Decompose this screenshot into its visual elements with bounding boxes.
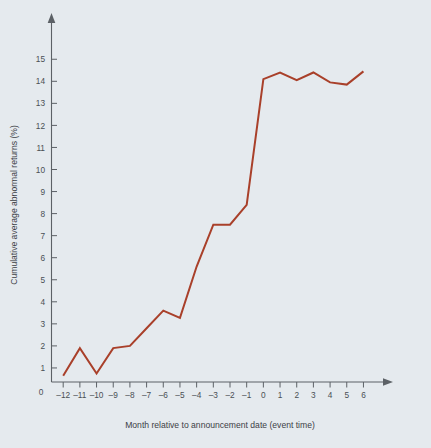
origin-label: 0	[39, 387, 44, 397]
y-tick-label: 12	[36, 121, 46, 131]
y-axis-arrow-icon	[48, 13, 56, 23]
data-series-line	[63, 71, 363, 375]
y-tick-label: 8	[40, 209, 45, 219]
x-tick-label: 5	[344, 390, 349, 400]
x-tick-label: 6	[361, 390, 366, 400]
chart-plot-area: 123456789101112131415 –12–11–10–9–8–7–6–…	[0, 0, 431, 448]
x-tick-label: –1	[242, 390, 252, 400]
x-tick-label: –4	[192, 390, 202, 400]
y-tick-label: 2	[40, 341, 45, 351]
x-tick-label: 4	[328, 390, 333, 400]
x-tick-label: 1	[278, 390, 283, 400]
y-tick-label: 11	[36, 143, 45, 153]
x-axis-title: Month relative to announcement date (eve…	[125, 420, 315, 430]
y-tick-label: 14	[36, 76, 46, 86]
x-tick-label: –11	[73, 390, 87, 400]
axes-group	[48, 13, 393, 386]
y-tick-label: 4	[40, 297, 45, 307]
x-tick-label: –6	[159, 390, 169, 400]
y-tick-label: 6	[40, 253, 45, 263]
y-tick-label: 3	[40, 319, 45, 329]
y-tick-label: 5	[40, 275, 45, 285]
y-tick-label: 1	[40, 363, 45, 373]
x-tick-label: –7	[142, 390, 152, 400]
chart-figure: 123456789101112131415 –12–11–10–9–8–7–6–…	[0, 0, 431, 448]
y-axis-ticks: 123456789101112131415	[36, 54, 57, 373]
y-tick-label: 15	[36, 54, 46, 64]
x-tick-label: 2	[294, 390, 299, 400]
y-tick-label: 10	[36, 165, 46, 175]
x-tick-label: 0	[261, 390, 266, 400]
x-tick-label: –12	[56, 390, 70, 400]
x-tick-label: –5	[175, 390, 185, 400]
y-tick-label: 9	[40, 187, 45, 197]
x-tick-label: –3	[209, 390, 219, 400]
x-axis-arrow-icon	[383, 378, 393, 386]
x-tick-label: 3	[311, 390, 316, 400]
x-tick-label: –8	[125, 390, 135, 400]
x-tick-label: –10	[90, 390, 104, 400]
y-axis-title: Cumulative average abnormal returns (%)	[9, 125, 19, 285]
x-tick-label: –2	[225, 390, 235, 400]
x-tick-label: –9	[109, 390, 119, 400]
x-axis-ticks: –12–11–10–9–8–7–6–5–4–3–2–10123456	[56, 382, 366, 400]
y-tick-label: 7	[40, 231, 45, 241]
y-tick-label: 13	[36, 98, 46, 108]
